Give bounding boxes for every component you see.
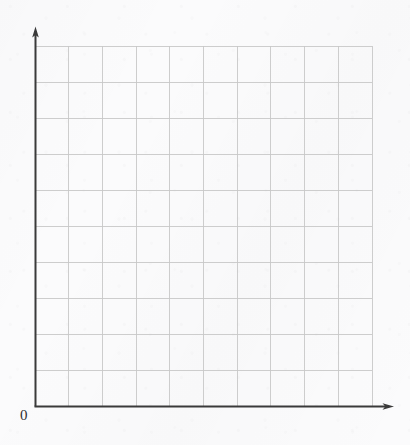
x-axis	[35, 403, 395, 410]
grid-lines	[35, 46, 372, 406]
y-axis	[32, 27, 39, 407]
origin-label: 0	[20, 408, 28, 423]
graph-paper-figure: 0	[0, 0, 410, 445]
coordinate-plane	[0, 0, 410, 445]
